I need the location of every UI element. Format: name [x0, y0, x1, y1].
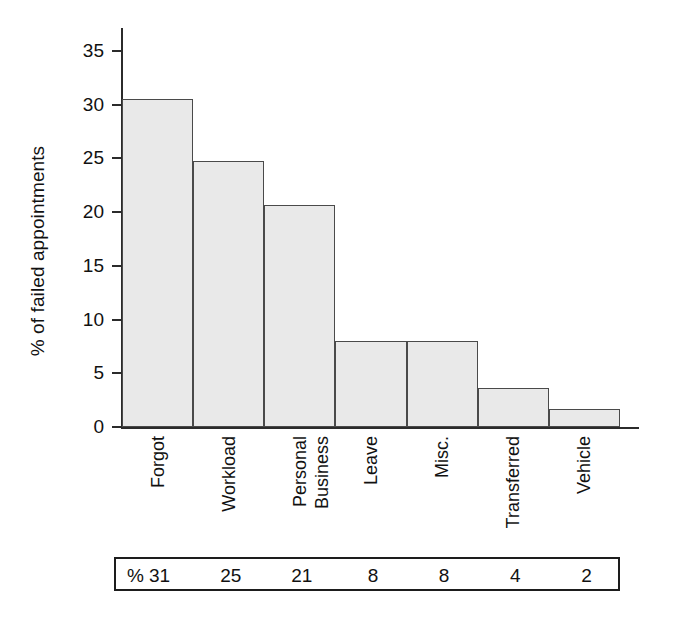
value-table-cell: 4: [485, 565, 545, 586]
value-table-cell: 8: [343, 565, 403, 586]
x-category-label: Workload: [193, 436, 264, 556]
value-table-cell: 21: [272, 565, 332, 586]
x-category-label-line: Personal: [290, 436, 310, 507]
x-category-label-line: Vehicle: [574, 436, 594, 494]
value-table: % 3125218842: [114, 557, 620, 591]
bar: [193, 161, 264, 427]
x-category-label: Misc.: [407, 436, 478, 556]
x-category-label: PersonalBusiness: [264, 436, 335, 556]
x-category-label-line: Leave: [361, 436, 381, 485]
bar: [122, 99, 193, 427]
bar: [478, 388, 549, 427]
value-table-cell: 31: [130, 565, 190, 586]
x-category-label: Vehicle: [549, 436, 620, 556]
x-category-label: Leave: [335, 436, 406, 556]
x-category-label-line: Misc.: [432, 436, 452, 478]
bar: [549, 409, 620, 427]
x-category-label-line: Workload: [219, 436, 239, 512]
bar-chart: % of failed appointments 05101520253035 …: [0, 0, 678, 622]
bar: [264, 205, 335, 427]
value-table-cell: 8: [414, 565, 474, 586]
value-table-cell: 25: [201, 565, 261, 586]
x-category-label-line: Transferred: [503, 436, 523, 528]
x-category-label-line: Forgot: [148, 436, 168, 488]
x-category-label: Forgot: [122, 436, 193, 556]
bar: [335, 341, 406, 427]
value-table-cell: 2: [556, 565, 616, 586]
bar: [407, 341, 478, 427]
x-category-label: Transferred: [478, 436, 549, 556]
x-category-label-line: Business: [312, 436, 332, 509]
